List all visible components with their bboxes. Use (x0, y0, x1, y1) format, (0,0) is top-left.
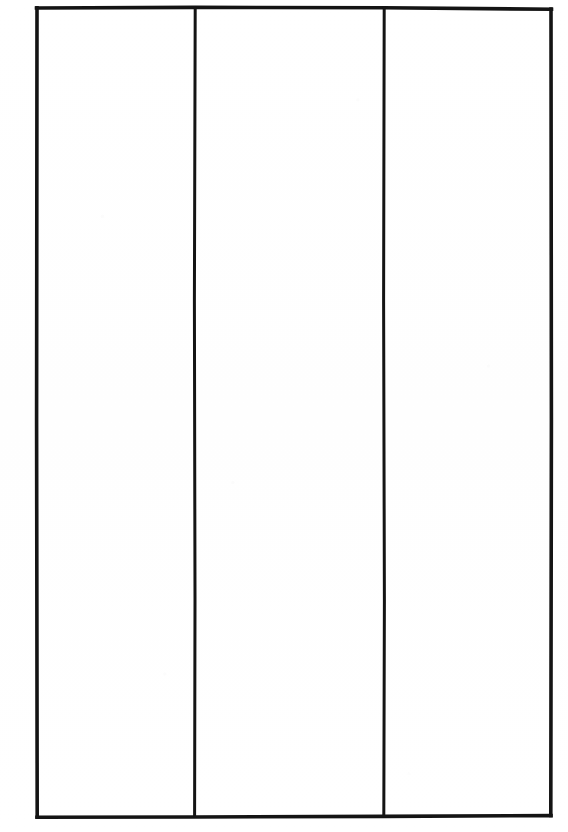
column-3-cell[interactable] (387, 11, 549, 814)
column-2-cell[interactable] (198, 11, 381, 814)
page-canvas (0, 0, 568, 832)
table-border-top (37, 7, 552, 9)
column-1-cell[interactable] (39, 11, 192, 814)
table-border-bottom (37, 816, 551, 818)
table-border-left (37, 8, 38, 817)
table-border-right (551, 9, 552, 815)
column-divider-1 (194, 8, 195, 816)
column-divider-2 (384, 8, 385, 816)
